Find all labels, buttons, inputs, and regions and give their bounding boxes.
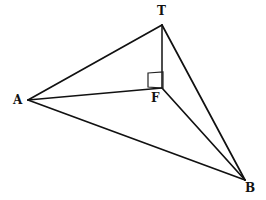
vertex-label-F: F: [151, 92, 160, 104]
vertex-label-B: B: [245, 182, 255, 194]
edge-A-B: [28, 100, 245, 180]
edge-A-F: [28, 88, 162, 100]
geometry-figure: T A F B: [0, 0, 266, 200]
vertex-label-A: A: [13, 94, 22, 106]
vertex-label-T: T: [157, 5, 166, 17]
right-angle-marker-icon: [148, 72, 163, 88]
edge-T-A: [28, 25, 162, 100]
figure-canvas: [0, 0, 266, 200]
